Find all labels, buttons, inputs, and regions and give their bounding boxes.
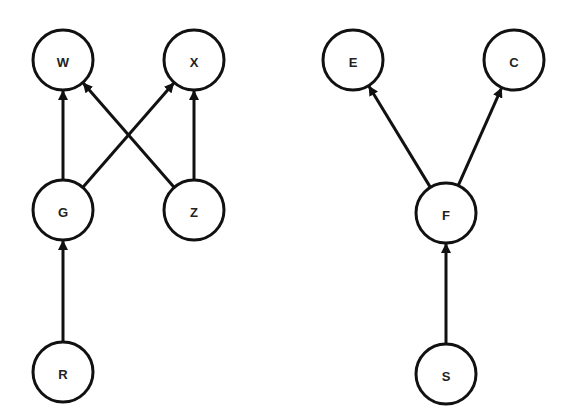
node-label: S [442, 369, 451, 384]
node-w: W [33, 30, 93, 90]
node-label: Z [190, 205, 198, 220]
nodes-layer: WXGZRECFS [33, 30, 544, 404]
node-r: R [33, 342, 93, 402]
node-x: X [164, 30, 224, 90]
node-label: E [349, 55, 358, 70]
edge-f-to-e [369, 87, 430, 188]
node-label: R [58, 367, 68, 382]
diagram-canvas: WXGZRECFS [0, 0, 574, 419]
node-z: Z [164, 180, 224, 240]
node-g: G [33, 180, 93, 240]
edge-f-to-c [458, 88, 501, 185]
node-s: S [416, 344, 476, 404]
node-f: F [416, 183, 476, 243]
node-label: W [57, 55, 70, 70]
node-e: E [323, 30, 383, 90]
node-label: C [509, 55, 519, 70]
node-label: G [58, 205, 68, 220]
node-label: F [442, 208, 450, 223]
node-c: C [484, 30, 544, 90]
node-label: X [190, 55, 199, 70]
